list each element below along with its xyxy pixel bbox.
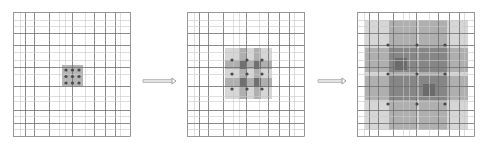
data-point-dot: [260, 58, 263, 61]
data-point-dot: [71, 75, 74, 78]
panel-3: Second expansion: overlapping bands: [357, 12, 475, 137]
data-point-dot: [64, 75, 67, 78]
grid-expansion-diagram: Initial state: 3x3 point clusterFirst ex…: [0, 0, 482, 148]
data-point-dot: [386, 43, 389, 46]
data-point-dot: [386, 102, 389, 105]
shaded-cell: [419, 20, 447, 130]
data-point-dot: [245, 87, 248, 90]
shaded-cell: [254, 48, 261, 99]
data-point-dot: [71, 81, 74, 84]
shaded-cell: [225, 78, 272, 87]
data-point-dot: [245, 58, 248, 61]
data-point-dot: [77, 68, 80, 71]
data-point-dot: [230, 58, 233, 61]
data-point-dot: [64, 81, 67, 84]
shaded-cell: [395, 58, 407, 70]
data-point-dot: [443, 43, 446, 46]
shaded-cell: [239, 78, 246, 87]
data-point-dot: [443, 102, 446, 105]
shaded-cell: [254, 78, 261, 87]
panel-1: Initial state: 3x3 point cluster: [13, 12, 131, 137]
shaded-cell: [239, 48, 246, 99]
panel-2: First expansion: checkerboard neighborho…: [187, 12, 305, 137]
data-point-dot: [443, 72, 446, 75]
data-point-dot: [230, 87, 233, 90]
shaded-cell: [419, 48, 447, 72]
data-point-dot: [415, 43, 418, 46]
right-arrow-icon: [143, 78, 176, 84]
data-point-dot: [71, 68, 74, 71]
data-point-dot: [77, 81, 80, 84]
right-arrow-icon: [318, 78, 346, 84]
data-point-dot: [415, 102, 418, 105]
shaded-cell: [423, 84, 435, 96]
data-point-dot: [260, 72, 263, 75]
data-point-dot: [386, 72, 389, 75]
point-cluster: [64, 68, 80, 84]
panels-layer: Initial state: 3x3 point clusterFirst ex…: [13, 12, 475, 137]
data-point-dot: [230, 72, 233, 75]
data-point-dot: [245, 72, 248, 75]
grid-lines: [13, 12, 131, 137]
diagram-canvas: Initial state: 3x3 point clusterFirst ex…: [0, 0, 482, 148]
data-point-dot: [77, 75, 80, 78]
data-point-dot: [64, 68, 67, 71]
data-point-dot: [260, 87, 263, 90]
data-point-dot: [415, 72, 418, 75]
